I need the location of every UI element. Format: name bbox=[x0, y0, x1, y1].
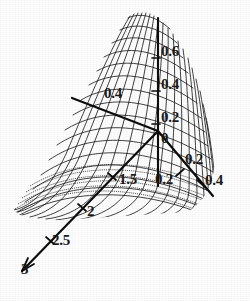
x-tick-label-2-5: 2.5 bbox=[52, 233, 70, 248]
z-tick-label-0-6: 0.6 bbox=[161, 44, 179, 59]
y-tick-label-0-2-upper: 0.2 bbox=[185, 152, 203, 167]
x-tick-label-2: 2 bbox=[87, 204, 94, 219]
x-tick-label-3: 3 bbox=[21, 262, 28, 277]
y-tick-label-0-2-lower: 0.2 bbox=[155, 172, 173, 187]
z-tick-label-0: 0 bbox=[161, 131, 168, 146]
x-axis-line bbox=[22, 131, 158, 271]
x-tick-label-1-5: 1.5 bbox=[119, 172, 137, 187]
z-tick-label-0-2: 0.2 bbox=[161, 110, 179, 125]
x-tick-label-0-4: 0.4 bbox=[104, 86, 122, 101]
surface-mesh bbox=[14, 13, 217, 221]
z-tick-label-0-4: 0.4 bbox=[161, 77, 179, 92]
surface-plot-figure: 0.6 0.4 0.2 0 0.4 0.2 0.2 0.4 1.5 2 2.5 … bbox=[0, 0, 250, 301]
y-tick-label-0-4: 0.4 bbox=[205, 173, 223, 188]
plot-canvas bbox=[0, 0, 250, 301]
